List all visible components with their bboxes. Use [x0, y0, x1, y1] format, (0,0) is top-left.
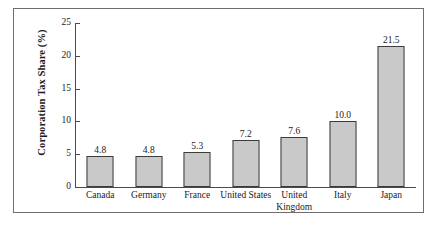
bar-value-label: 4.8	[94, 145, 106, 156]
bar-group: 7.6United Kingdom	[270, 23, 319, 187]
y-tick-label: 10	[62, 114, 72, 127]
bar-group: 5.3France	[173, 23, 222, 187]
bar-group: 10.0Italy	[319, 23, 368, 187]
x-tick-label: Japan	[361, 190, 421, 202]
bar-value-label: 10.0	[334, 110, 351, 121]
bar: 5.3	[184, 152, 211, 187]
bar-group: 7.2United States	[222, 23, 271, 187]
bar-value-label: 5.3	[191, 141, 203, 152]
y-tick-label: 15	[62, 82, 72, 95]
y-tick: 0	[75, 187, 80, 188]
chart-figure: Corporation Tax Share (%) 0510152025 4.8…	[13, 8, 424, 213]
bar: 7.6	[281, 137, 308, 187]
y-tick-mark	[75, 187, 80, 188]
bar-value-label: 7.6	[288, 126, 300, 137]
bar-value-label: 7.2	[240, 129, 252, 140]
plot-area: 0510152025 4.8Canada4.8Germany5.3France7…	[75, 23, 415, 188]
bar: 21.5	[378, 46, 405, 187]
x-axis-line	[75, 187, 416, 188]
bar: 10.0	[329, 121, 356, 187]
y-tick-label: 5	[66, 147, 71, 160]
bar: 4.8	[135, 156, 162, 187]
bar-group: 21.5Japan	[367, 23, 416, 187]
bar: 4.8	[87, 156, 114, 187]
bar: 7.2	[232, 140, 259, 187]
y-tick-label: 20	[62, 49, 72, 62]
y-axis-title: Corporation Tax Share (%)	[36, 8, 47, 178]
bar-value-label: 4.8	[143, 145, 155, 156]
bar-value-label: 21.5	[383, 35, 400, 46]
bar-group: 4.8Germany	[125, 23, 174, 187]
bar-group: 4.8Canada	[76, 23, 125, 187]
y-tick-label: 25	[62, 16, 72, 29]
